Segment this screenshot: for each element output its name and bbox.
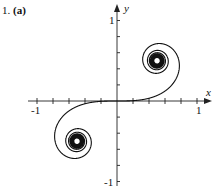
axes (28, 4, 212, 186)
x-max-label: 1 (196, 105, 202, 116)
y-max-label: 1 (109, 15, 115, 26)
x-axis-arrow-icon (204, 98, 212, 104)
y-min-label: -1 (104, 177, 113, 188)
y-axis-label: y (124, 3, 129, 14)
x-min-label: -1 (31, 105, 40, 116)
x-axis-label: x (206, 87, 211, 98)
cornu-spiral-chart (0, 0, 217, 188)
y-axis-arrow-icon (114, 4, 120, 12)
